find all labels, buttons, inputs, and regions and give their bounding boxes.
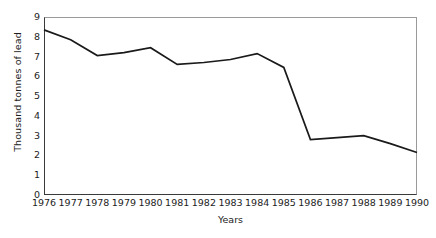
y-axis-tick-label: 4 <box>28 111 40 121</box>
x-axis-tick-label: 1987 <box>325 198 349 208</box>
line-chart: Thousand tonnes of lead 0123456789 19761… <box>0 0 436 238</box>
plot-area <box>44 17 417 195</box>
y-axis-tick-label: 1 <box>28 170 40 180</box>
x-axis-tick-label: 1981 <box>165 198 189 208</box>
x-axis-tick-label: 1983 <box>218 198 242 208</box>
x-axis-tick-label: 1990 <box>405 198 429 208</box>
x-axis-tick-labels: 1976197719781979198019811982198319841985… <box>44 198 417 212</box>
y-axis-tick-label: 3 <box>28 131 40 141</box>
x-axis-tick-label: 1980 <box>138 198 162 208</box>
x-axis-tick-label: 1976 <box>32 198 56 208</box>
y-axis-tick-label: 6 <box>28 72 40 82</box>
x-axis-title: Years <box>44 214 417 225</box>
x-axis-tick-label: 1977 <box>59 198 83 208</box>
y-axis-tick-label: 8 <box>28 32 40 42</box>
x-axis-tick-label: 1986 <box>298 198 322 208</box>
x-axis-tick-label: 1982 <box>192 198 216 208</box>
y-axis-tick-label: 2 <box>28 151 40 161</box>
x-axis-tick-label: 1988 <box>352 198 376 208</box>
x-axis-tick-label: 1978 <box>85 198 109 208</box>
x-axis-tick-label: 1989 <box>378 198 402 208</box>
y-axis-title: Thousand tonnes of lead <box>8 0 26 190</box>
y-axis-tick-label: 5 <box>28 91 40 101</box>
x-axis-tick-label: 1985 <box>272 198 296 208</box>
y-axis-tick-label: 7 <box>28 52 40 62</box>
x-axis-tick-label: 1979 <box>112 198 136 208</box>
x-axis-tick-label: 1984 <box>245 198 269 208</box>
data-series-line <box>44 30 417 153</box>
y-axis-tick-label: 9 <box>28 12 40 22</box>
